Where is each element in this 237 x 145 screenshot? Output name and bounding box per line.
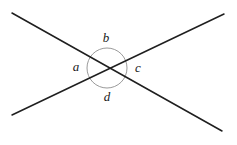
figure-canvas: a b c d <box>0 0 237 145</box>
intersecting-lines-diagram: a b c d <box>0 0 237 145</box>
angle-label-a: a <box>73 59 80 74</box>
angle-label-b: b <box>103 30 110 45</box>
angle-label-d: d <box>104 89 111 104</box>
angle-label-c: c <box>135 60 141 75</box>
